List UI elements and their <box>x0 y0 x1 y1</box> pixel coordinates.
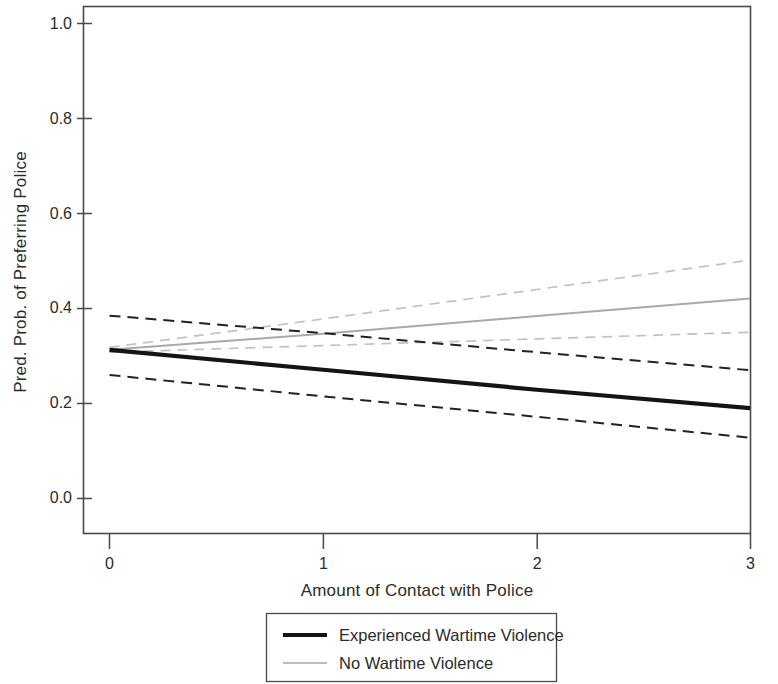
y-tick-label-0-2: 0.2 <box>50 394 72 411</box>
prediction-chart: 1.0 0.8 0.6 0.4 0.2 0.0 Pred. Prob. of P… <box>0 0 778 684</box>
x-tick-label-1: 1 <box>319 555 328 572</box>
legend-label-experienced-violence: Experienced Wartime Violence <box>339 626 564 644</box>
chart-legend: Experienced Wartime Violence No Wartime … <box>267 614 564 682</box>
x-axis-title: Amount of Contact with Police <box>301 581 534 600</box>
y-tick-label-0-8: 0.8 <box>50 110 72 127</box>
legend-label-no-violence: No Wartime Violence <box>339 654 493 672</box>
x-tick-label-3: 3 <box>746 555 755 572</box>
y-tick-label-0-6: 0.6 <box>50 205 72 222</box>
y-axis-title: Pred. Prob. of Preferring Police <box>11 151 30 393</box>
y-tick-label-1-0: 1.0 <box>50 15 72 32</box>
x-tick-label-2: 2 <box>533 555 542 572</box>
y-tick-label-0-4: 0.4 <box>50 299 72 316</box>
y-tick-label-0-0: 0.0 <box>50 489 72 506</box>
x-tick-label-0: 0 <box>105 555 114 572</box>
